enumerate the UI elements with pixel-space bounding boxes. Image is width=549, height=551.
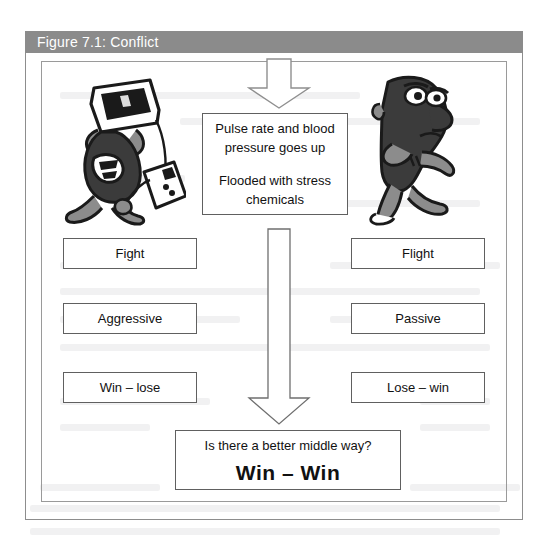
stress-line-2: pressure goes up [215,138,334,157]
win-win-label: Win – Win [236,460,340,486]
win-win-box: Is there a better middle way? Win – Win [175,430,401,490]
stress-line-4: chemicals [219,190,331,209]
left-outcome-box: Win – lose [63,372,197,403]
right-outcome-box: Lose – win [351,372,485,403]
stress-line-1: Pulse rate and blood [215,119,334,138]
angry-person-smashing-computer-illustration [58,74,186,226]
stress-response-box: Pulse rate and blood pressure goes up Fl… [202,113,348,215]
left-response-box: Fight [63,238,197,269]
down-arrow-icon [247,228,311,426]
middle-way-question: Is there a better middle way? [205,437,372,454]
down-arrow-icon [247,58,311,110]
right-style-box: Passive [351,303,485,334]
right-response-box: Flight [351,238,485,269]
left-style-box: Aggressive [63,303,197,334]
stress-line-3: Flooded with stress [219,171,331,190]
figure-caption: Figure 7.1: Conflict [25,31,523,53]
timid-person-sneaking-away-illustration [358,74,476,226]
